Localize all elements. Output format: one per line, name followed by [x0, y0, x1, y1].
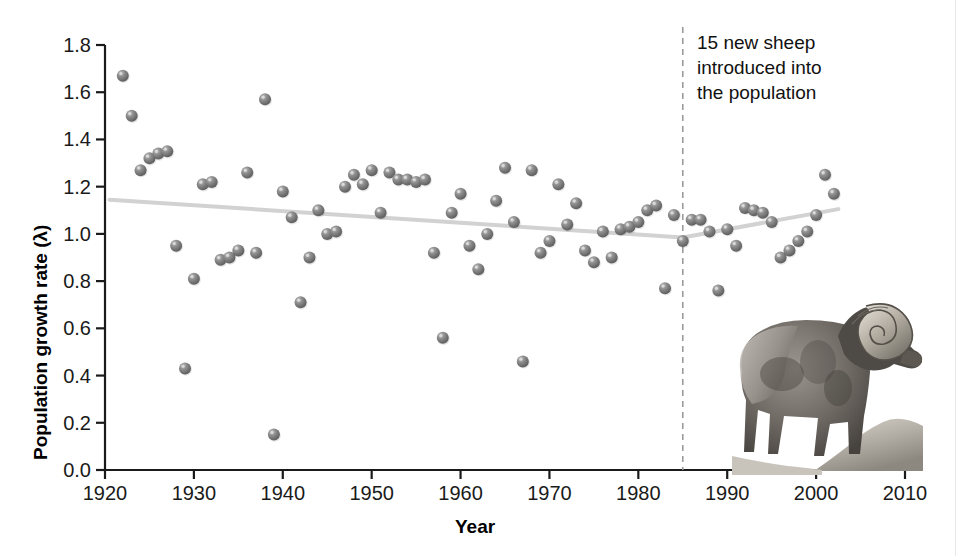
point-specular	[688, 216, 691, 219]
point-sphere	[801, 226, 813, 238]
point-sphere	[428, 247, 440, 259]
point-specular	[199, 181, 202, 184]
point-sphere	[472, 263, 484, 275]
x-axis-title: Year	[455, 516, 495, 538]
point-sphere	[490, 195, 502, 207]
point-specular	[679, 237, 682, 240]
data-point	[721, 223, 734, 236]
point-sphere	[579, 244, 591, 256]
y-tick-label: 1.8	[63, 34, 91, 57]
data-point	[588, 256, 601, 269]
point-sphere	[259, 93, 271, 105]
y-tick-label: 1.0	[63, 222, 91, 245]
data-point	[668, 209, 681, 222]
point-sphere	[463, 240, 475, 252]
point-specular	[350, 171, 353, 174]
data-point	[659, 282, 672, 295]
data-point	[570, 197, 583, 210]
annotation-line-2: introduced into	[697, 55, 887, 80]
point-specular	[315, 206, 318, 209]
point-sphere	[570, 197, 582, 209]
y-tick-label: 0.6	[63, 317, 91, 340]
data-point	[188, 273, 201, 286]
point-specular	[510, 218, 513, 221]
point-sphere	[170, 240, 182, 252]
data-point	[703, 226, 716, 239]
point-specular	[208, 178, 211, 181]
data-point	[455, 188, 468, 201]
point-specular	[821, 171, 824, 174]
point-sphere	[730, 240, 742, 252]
point-specular	[173, 242, 176, 245]
x-tick-label: 1990	[705, 482, 750, 505]
y-axis-title: Population growth rate (λ)	[30, 225, 52, 460]
point-specular	[750, 206, 753, 209]
data-point	[481, 228, 494, 241]
data-point	[446, 207, 459, 220]
point-specular	[661, 284, 664, 287]
point-sphere	[135, 164, 147, 176]
point-specular	[244, 169, 247, 172]
point-sphere	[446, 207, 458, 219]
point-sphere	[588, 256, 600, 268]
point-sphere	[668, 209, 680, 221]
point-specular	[706, 228, 709, 231]
point-specular	[288, 214, 291, 217]
point-specular	[146, 155, 149, 158]
point-specular	[644, 206, 647, 209]
point-sphere	[232, 244, 244, 256]
point-specular	[813, 211, 816, 214]
point-specular	[573, 199, 576, 202]
point-sphere	[677, 235, 689, 247]
point-specular	[786, 247, 789, 250]
point-specular	[377, 209, 380, 212]
y-tick-label: 1.4	[63, 128, 91, 151]
x-tick-label: 2010	[883, 482, 928, 505]
point-specular	[359, 181, 362, 184]
point-sphere	[250, 247, 262, 259]
point-specular	[590, 258, 593, 261]
point-sphere	[312, 204, 324, 216]
point-specular	[421, 176, 424, 179]
point-specular	[546, 237, 549, 240]
data-point	[535, 247, 548, 260]
point-specular	[341, 183, 344, 186]
y-tick-label: 0.4	[63, 364, 91, 387]
point-specular	[635, 218, 638, 221]
point-specular	[386, 169, 389, 172]
data-point	[766, 216, 779, 229]
point-specular	[501, 164, 504, 167]
x-tick-label: 1930	[172, 482, 217, 505]
data-point	[517, 355, 530, 368]
point-specular	[324, 230, 327, 233]
point-specular	[413, 178, 416, 181]
point-specular	[599, 228, 602, 231]
point-specular	[279, 188, 282, 191]
point-specular	[715, 287, 718, 290]
point-sphere	[828, 188, 840, 200]
data-point	[597, 226, 610, 239]
point-sphere	[268, 429, 280, 441]
point-sphere	[499, 162, 511, 174]
point-sphere	[241, 167, 253, 179]
point-sphere	[703, 226, 715, 238]
x-tick-label: 1960	[438, 482, 483, 505]
point-specular	[253, 249, 256, 252]
point-specular	[475, 266, 478, 269]
point-specular	[466, 242, 469, 245]
point-specular	[439, 334, 442, 337]
point-specular	[564, 221, 567, 224]
point-sphere	[179, 362, 191, 374]
point-sphere	[339, 181, 351, 193]
point-sphere	[366, 164, 378, 176]
data-point	[179, 362, 192, 375]
point-sphere	[810, 209, 822, 221]
data-point	[579, 244, 592, 257]
data-point	[117, 70, 130, 83]
point-sphere	[188, 273, 200, 285]
data-point	[437, 332, 450, 345]
data-point	[490, 195, 503, 208]
point-sphere	[766, 216, 778, 228]
data-point	[357, 178, 370, 191]
annotation-line-3: the population	[697, 80, 887, 105]
